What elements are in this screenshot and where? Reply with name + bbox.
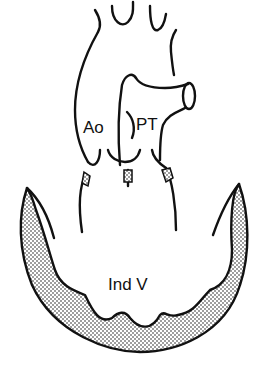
aorta-label: Ao xyxy=(83,118,104,137)
ventricle: Ind V xyxy=(21,184,248,352)
aorta: Ao xyxy=(75,32,104,165)
valve-attachments xyxy=(80,168,176,232)
heart-diagram: Ao PT Ind V xyxy=(0,0,271,370)
pulmonary-trunk: PT xyxy=(108,75,195,168)
pulmonary-trunk-label: PT xyxy=(136,115,158,134)
ventricle-label: Ind V xyxy=(108,275,148,294)
arch-branches xyxy=(95,2,176,75)
